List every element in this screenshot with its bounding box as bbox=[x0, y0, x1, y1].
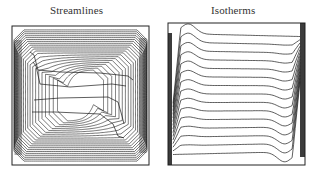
isotherms-plot bbox=[168, 23, 305, 165]
streamlines-plot bbox=[12, 26, 149, 165]
figure-canvas bbox=[0, 0, 318, 177]
